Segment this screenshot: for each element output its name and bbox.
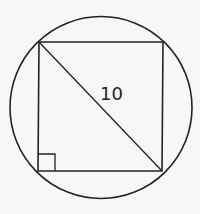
diagram-canvas: 10 <box>0 0 200 214</box>
square-diagonal <box>39 42 162 171</box>
diagonal-length-label: 10 <box>100 83 123 104</box>
right-angle-marker <box>38 154 55 171</box>
